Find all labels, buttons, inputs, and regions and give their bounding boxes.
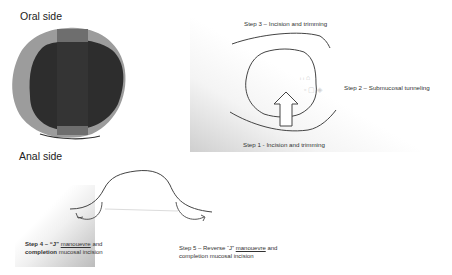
upper-wall-line xyxy=(232,33,330,48)
reverse-j-manoeuvre-arrow xyxy=(176,202,204,219)
tunnel-band xyxy=(57,29,88,135)
up-arrow-icon xyxy=(274,92,298,126)
step4-prefix: Step 4 – “J” xyxy=(25,241,61,247)
step4-suffix: and xyxy=(91,241,103,247)
svg-text:▫ ▢ ◈: ▫ ▢ ◈ xyxy=(304,86,323,93)
anal-side-illustration xyxy=(60,165,220,230)
oral-side-lesion-illustration xyxy=(0,0,140,145)
step4-line2-bold: completion xyxy=(25,249,57,255)
step2-label: Step 2 – Submucosal tunneling xyxy=(344,84,430,91)
step5-manoeuvre-word: manouevre xyxy=(236,245,266,251)
step4-line2-rest: mucosal incision xyxy=(57,249,103,255)
svg-text:ᵢ ᵢ ⌂: ᵢ ᵢ ⌂ xyxy=(300,74,310,81)
step5-prefix: Step 5 – Reverse “J” xyxy=(179,245,236,251)
step4-manoeuvre-word: manouevre xyxy=(61,241,91,247)
step4-label: Step 4 – “J” manouevre and completion mu… xyxy=(25,240,103,256)
step5-line2: completion mucosal incision xyxy=(179,253,254,259)
mucosa-profile-line xyxy=(70,171,212,212)
tunneling-steps-illustration: ᵢ ᵢ ⌂ ▫ ▢ ◈ xyxy=(220,0,350,145)
step5-label: Step 5 – Reverse “J” manouevre and compl… xyxy=(179,244,277,260)
step5-suffix: and xyxy=(266,245,278,251)
submucosal-baseline xyxy=(105,209,178,211)
anal-side-heading: Anal side xyxy=(19,150,62,162)
